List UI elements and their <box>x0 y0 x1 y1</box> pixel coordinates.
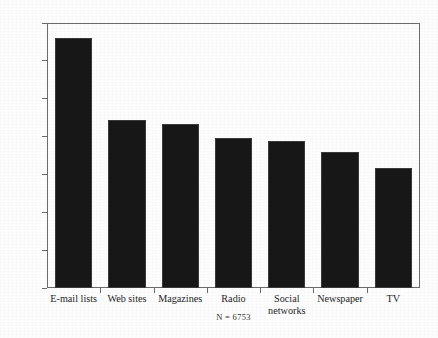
y-tick-mark <box>42 174 47 175</box>
sample-size-annotation: N = 6753 <box>204 312 264 322</box>
x-tick-label: Newspaper <box>313 293 366 305</box>
y-tick-mark <box>42 288 47 289</box>
bar <box>321 152 358 288</box>
y-tick-mark <box>42 98 47 99</box>
x-tick-label: Web sites <box>100 293 153 305</box>
bar <box>55 38 92 288</box>
x-tick-label: E-mail lists <box>47 293 100 305</box>
y-tick-mark <box>42 23 47 24</box>
x-tick-label: TV <box>367 293 420 305</box>
bar <box>108 120 145 288</box>
x-tick-label: Socialnetworks <box>260 293 313 316</box>
bar <box>268 141 305 288</box>
bar <box>215 138 252 288</box>
y-tick-mark <box>42 250 47 251</box>
y-tick-mark <box>42 212 47 213</box>
x-tick-label: Magazines <box>154 293 207 305</box>
x-tick-label: Radio <box>207 293 260 305</box>
chart-figure: Mean Denomination Diversity 00.20.40.60.… <box>0 0 438 338</box>
bar <box>162 124 199 288</box>
y-tick-mark <box>42 60 47 61</box>
y-tick-mark <box>42 136 47 137</box>
bar <box>375 168 412 288</box>
